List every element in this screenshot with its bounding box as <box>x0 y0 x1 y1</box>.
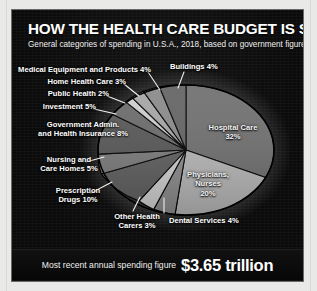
label-medical-equipment: Medical Equipment and Products 4% <box>18 65 151 74</box>
pie-chart <box>12 10 303 281</box>
chart-stage: Medical Equipment and Products 4% Home H… <box>12 10 303 281</box>
label-nursing-line2: Care Homes 5% <box>14 164 124 173</box>
label-prescription-line2: Drugs 10% <box>30 195 126 204</box>
label-government-admin-line2: and Health Insurance 8% <box>18 129 148 138</box>
label-physicians-line3: 20% <box>170 189 246 198</box>
page-seam-left <box>6 0 7 291</box>
label-physicians-line2: Nurses <box>170 179 246 188</box>
label-buildings: Buildings 4% <box>170 62 218 71</box>
footer-amount: $3.65 trillion <box>181 256 273 275</box>
label-government-admin: Government Admin. and Health Insurance 8… <box>18 120 148 139</box>
label-hospital-line2: 32% <box>190 132 276 141</box>
page-seam-right <box>310 0 311 291</box>
label-home-health-care: Home Health Care 3% <box>48 77 127 86</box>
infographic-root: HOW THE HEALTH CARE BUDGET IS SPENT Gene… <box>0 0 317 291</box>
infographic-panel: HOW THE HEALTH CARE BUDGET IS SPENT Gene… <box>12 10 303 281</box>
label-government-admin-line1: Government Admin. <box>18 120 148 129</box>
label-prescription-line1: Prescription <box>30 186 126 195</box>
footer-total-bar: Most recent annual spending figure $3.65… <box>12 249 303 280</box>
label-public-health: Public Health 2% <box>48 89 109 98</box>
label-nursing-care-homes: Nursing and Care Homes 5% <box>14 155 124 174</box>
label-physicians-nurses: Physicians, Nurses 20% <box>170 170 246 198</box>
label-hospital-line1: Hospital Care <box>190 123 276 132</box>
footer-prefix: Most recent annual spending figure <box>42 260 176 270</box>
label-prescription-drugs: Prescription Drugs 10% <box>30 186 126 205</box>
label-hospital-care: Hospital Care 32% <box>190 123 276 142</box>
label-investment: Investment 5% <box>43 102 96 111</box>
label-dental-services: Dental Services 4% <box>169 216 239 225</box>
label-physicians-line1: Physicians, <box>170 170 246 179</box>
label-nursing-line1: Nursing and <box>14 155 124 164</box>
